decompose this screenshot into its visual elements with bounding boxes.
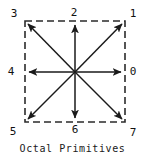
- arrow-7-southeast: [75, 72, 122, 119]
- direction-label-4: 4: [8, 66, 15, 77]
- direction-label-5: 5: [10, 126, 17, 137]
- direction-label-7: 7: [130, 127, 137, 138]
- figure-caption: Octal Primitives: [0, 143, 145, 154]
- direction-label-0: 0: [130, 66, 137, 77]
- direction-label-1: 1: [130, 8, 137, 19]
- arrow-1-northeast: [75, 24, 122, 72]
- octal-directions-diagram: [0, 0, 145, 165]
- direction-label-6: 6: [72, 124, 79, 135]
- direction-label-2: 2: [71, 7, 78, 18]
- octal-primitives-figure: 0 1 2 3 4 5 6 7 Octal Primitives: [0, 0, 145, 165]
- direction-arrows: [28, 24, 122, 119]
- arrow-5-southwest: [28, 72, 75, 119]
- direction-label-3: 3: [11, 8, 18, 19]
- arrow-3-northwest: [28, 24, 75, 72]
